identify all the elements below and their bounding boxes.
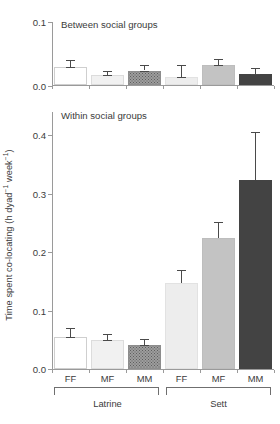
error-bar-between-latrine-ff: [70, 60, 71, 68]
group-labels: Latrine Sett: [52, 398, 274, 412]
panel-top-x-axis-tick-1: [89, 86, 90, 89]
figure-bar-chart: Time spent co-locating (h dyad−1 week−1)…: [0, 0, 280, 424]
error-bar-within-sett-mf: [218, 222, 219, 238]
panel-top-x-axis-tick-5: [237, 86, 238, 89]
bar-between-sett-mm: [239, 74, 272, 85]
error-cap-top-between-latrine-ff: [66, 60, 75, 61]
panel-within-social-groups: Within social groups 0.00.10.20.30.4: [52, 112, 274, 370]
panel-bottom-plot-area: 0.00.10.20.30.4: [52, 112, 274, 370]
x-axis-category-labels: FF MF MM FF MF MM: [52, 373, 274, 386]
error-cap-top-within-latrine-ff: [66, 328, 75, 329]
error-cap-bottom-between-sett-mm: [251, 74, 260, 75]
x-label-latrine-mf: MF: [101, 373, 115, 384]
bar-within-sett-mm: [239, 180, 272, 369]
panel-top-x-axis-tick-6: [274, 86, 275, 89]
panel-top-ytick-label-1: 0.1: [33, 17, 46, 28]
x-axis-tick-6: [274, 370, 275, 373]
error-cap-bottom-within-latrine-mf: [103, 340, 112, 341]
bar-within-latrine-mm: [128, 345, 161, 369]
bar-within-sett-mf: [202, 238, 235, 369]
error-cap-bottom-between-sett-ff: [177, 77, 186, 78]
panel-top-x-axis-tick-2: [126, 86, 127, 89]
x-label-sett-ff: FF: [176, 373, 187, 384]
panel-top-x-axis-tick-0: [52, 86, 53, 89]
bar-between-sett-mf: [202, 65, 235, 85]
panel-between-social-groups: Between social groups 0.0 0.1: [52, 22, 274, 86]
bar-within-latrine-mf: [91, 340, 124, 369]
bracket-sett: [166, 387, 271, 395]
error-cap-top-within-sett-mf: [214, 222, 223, 223]
error-cap-top-within-latrine-mm: [140, 339, 149, 340]
error-bar-within-sett-ff: [181, 270, 182, 283]
error-cap-bottom-between-sett-mf: [214, 65, 223, 66]
x-label-latrine-ff: FF: [65, 373, 76, 384]
error-cap-top-between-sett-mf: [214, 59, 223, 60]
error-cap-top-within-sett-ff: [177, 270, 186, 271]
panel-top-y-axis: [52, 22, 53, 86]
y-axis-title-mid: week: [4, 160, 14, 185]
y-axis-title-end: ): [4, 149, 14, 152]
panel-bottom-ytick-label-0: 0.0: [33, 364, 46, 375]
bar-within-latrine-ff: [54, 337, 87, 369]
y-axis-title-sup-2: −1: [2, 152, 9, 160]
bar-between-latrine-mf: [91, 75, 124, 85]
error-cap-top-between-sett-mm: [251, 68, 260, 69]
error-cap-bottom-within-latrine-ff: [66, 337, 75, 338]
error-bar-between-sett-ff: [181, 65, 182, 77]
x-label-sett-mm: MM: [248, 373, 264, 384]
error-cap-top-between-latrine-mf: [103, 71, 112, 72]
error-cap-top-between-sett-ff: [177, 65, 186, 66]
error-cap-top-within-sett-mm: [251, 132, 260, 133]
error-cap-bottom-between-latrine-mm: [140, 71, 149, 72]
error-cap-top-between-latrine-mm: [140, 65, 149, 66]
group-label-sett: Sett: [210, 398, 227, 409]
panel-top-plot-area: 0.0 0.1: [52, 22, 274, 86]
panel-top-x-axis-tick-4: [200, 86, 201, 89]
panel-top-ytick-label-0: 0.0: [33, 81, 46, 92]
panel-bottom-ytick-label-3: 0.3: [33, 188, 46, 199]
x-label-latrine-mm: MM: [137, 373, 153, 384]
y-axis-title-sup-1: −1: [2, 185, 9, 193]
error-bar-within-sett-mm: [255, 132, 256, 180]
bar-within-sett-ff: [165, 283, 198, 369]
panel-top-x-axis-tick-3: [163, 86, 164, 89]
y-axis-title: Time spent co-locating (h dyad−1 week−1): [0, 120, 18, 350]
bar-between-latrine-mm: [128, 71, 161, 85]
error-cap-bottom-within-latrine-mm: [140, 345, 149, 346]
panel-bottom-ytick-label-2: 0.2: [33, 247, 46, 258]
bar-between-latrine-ff: [54, 67, 87, 85]
bar-between-sett-ff: [165, 77, 198, 85]
group-label-latrine: Latrine: [93, 398, 122, 409]
error-bar-within-latrine-ff: [70, 328, 71, 337]
error-cap-bottom-between-latrine-mf: [103, 75, 112, 76]
y-axis-title-text: Time spent co-locating (h dyad: [4, 192, 14, 320]
panel-bottom-ytick-label-4: 0.4: [33, 130, 46, 141]
panel-bottom-y-axis: [52, 112, 53, 370]
x-label-sett-mf: MF: [212, 373, 226, 384]
error-cap-bottom-between-latrine-ff: [66, 67, 75, 68]
panel-bottom-ytick-label-1: 0.1: [33, 305, 46, 316]
error-cap-top-within-latrine-mf: [103, 334, 112, 335]
bracket-latrine: [54, 387, 159, 395]
